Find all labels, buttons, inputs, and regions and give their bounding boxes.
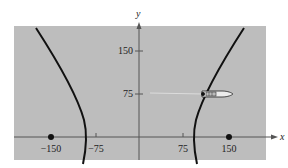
hyperbola-chart: x y −150 −75 75 150 75 150	[0, 0, 288, 168]
focus-left-point	[48, 134, 54, 140]
x-tick-label: 75	[178, 143, 188, 154]
x-tick-label: −150	[41, 143, 62, 154]
y-tick-label: 150	[118, 45, 133, 56]
x-tick-label: −75	[88, 143, 104, 154]
y-tick-label: 75	[123, 88, 133, 99]
y-axis-label: y	[135, 8, 141, 19]
x-tick-label: 150	[222, 143, 237, 154]
x-axis-label: x	[279, 131, 285, 142]
focus-right-point	[226, 134, 232, 140]
